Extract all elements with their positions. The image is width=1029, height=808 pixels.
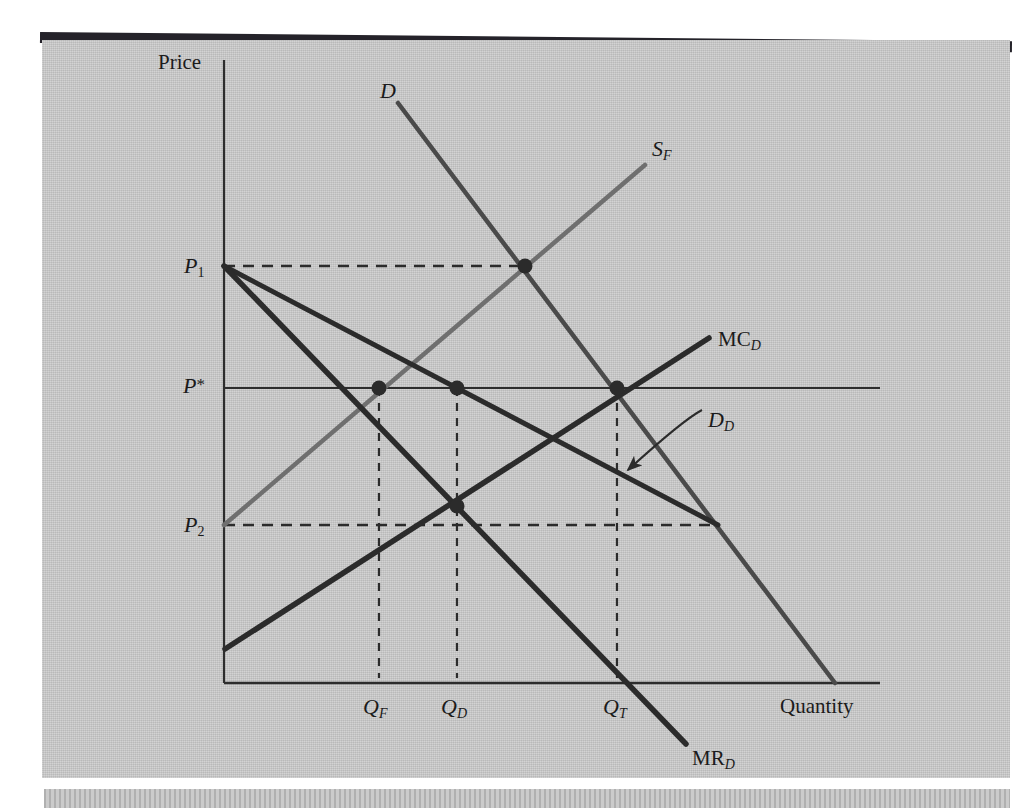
curve-mcd — [225, 338, 709, 649]
price-label-p1-base: P — [184, 253, 197, 278]
curve-label-mcd-base: MC — [718, 327, 751, 351]
intersection-dot-1 — [372, 381, 387, 396]
curve-label-mcd-sub: D — [751, 338, 761, 353]
y-axis-title: Price — [158, 50, 201, 75]
quantity-label-qd-base: Q — [441, 694, 457, 719]
quantity-label-qt: QT — [603, 694, 627, 722]
price-label-p1-sub: 1 — [197, 265, 204, 280]
curve-label-mrd-base: MR — [692, 746, 725, 770]
curves-group — [224, 103, 835, 744]
curve-label-d: D — [380, 78, 396, 106]
x-axis-title: Quantity — [780, 694, 854, 719]
price-label-p2-base: P — [184, 512, 197, 537]
quantity-label-qf-sub: F — [379, 706, 388, 721]
price-label-p1: P1 — [184, 253, 204, 281]
price-label-pstar: P* — [183, 373, 205, 399]
quantity-label-qt-sub: T — [619, 706, 627, 721]
curve-label-mcd: MCD — [718, 327, 761, 354]
curve-label-sf-sub: F — [663, 148, 672, 163]
curve-label-d-base: D — [380, 78, 396, 103]
curve-label-dd-sub: D — [724, 419, 734, 434]
curve-label-mrd-sub: D — [725, 757, 735, 772]
quantity-label-qt-base: Q — [603, 694, 619, 719]
intersection-dot-3 — [610, 381, 625, 396]
curve-label-sf: SF — [652, 136, 672, 164]
quantity-label-qd: QD — [441, 694, 467, 722]
figure-page: Price Quantity P1 P* P2 QF QD QT D SF MC… — [0, 0, 1029, 808]
price-label-pstar-sub: * — [196, 375, 205, 394]
curve-dd — [224, 266, 718, 525]
price-label-p2: P2 — [184, 512, 204, 540]
price-label-pstar-base: P — [183, 373, 196, 398]
intersection-dot-0 — [518, 259, 533, 274]
price-label-p2-sub: 2 — [197, 524, 204, 539]
dashed-guides-group — [224, 266, 718, 678]
quantity-label-qd-sub: D — [457, 706, 467, 721]
diagram-canvas — [0, 0, 1029, 808]
quantity-label-qf-base: Q — [363, 694, 379, 719]
curve-label-dd-base: D — [708, 407, 724, 432]
curve-label-mrd: MRD — [692, 746, 735, 773]
intersection-dot-2 — [450, 381, 465, 396]
curve-label-dd: DD — [708, 407, 734, 435]
curve-label-sf-base: S — [652, 136, 663, 161]
quantity-label-qf: QF — [363, 694, 387, 722]
intersection-dot-4 — [450, 499, 465, 514]
